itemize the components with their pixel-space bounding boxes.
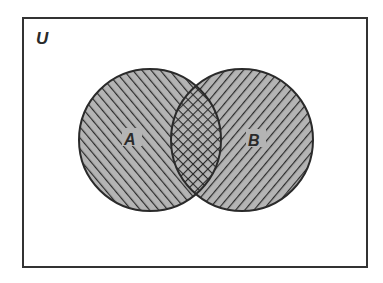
set-b-label: B — [248, 132, 260, 149]
venn-diagram: U A B — [0, 0, 383, 283]
universe-label: U — [36, 29, 49, 48]
set-a-label: A — [123, 131, 136, 148]
